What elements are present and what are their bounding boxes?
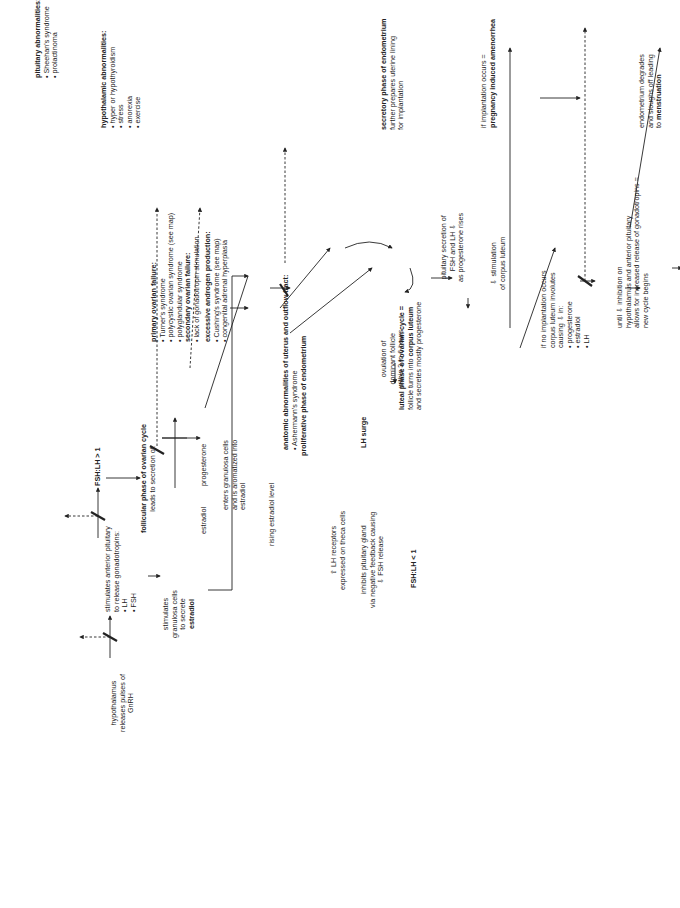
lh-surge-node: LH surge	[360, 417, 369, 448]
text-line: and secretes mostly progesterone	[415, 302, 424, 410]
text-line: estradiol	[239, 440, 248, 510]
pituitary-secretion-node: pituitary secretion of FSH and LH ⇩ as p…	[440, 213, 466, 282]
arc-inhibits-to-surge	[405, 268, 413, 292]
menstruation-node: endometrium degrades and sloughs off lea…	[638, 54, 664, 128]
list-item: • prolactinoma	[51, 0, 60, 78]
branch-progesterone	[162, 438, 175, 488]
text-line: new cycle begins	[642, 177, 651, 328]
fsh-lh-greater-than-one: FSH:LH > 1	[94, 447, 103, 486]
text-line: expressed on theca cells	[339, 511, 348, 590]
luteal-phase-node: luteal phase of ovarian cycle = follicle…	[398, 302, 424, 410]
inhibits-pituitary-node: inhibits pituitary gland via negative fe…	[360, 512, 386, 608]
hypothalamus-node: hypothalamus releases pulses of GnRH	[110, 674, 136, 732]
list-item: • Ashermann's syndrome	[291, 275, 300, 450]
arc-receptors-to-surge	[345, 242, 392, 248]
rising-estradiol-node: rising estradiol level	[268, 483, 277, 546]
pituitary-abnormalities: pituitary abnormalities: • Sheehan's syn…	[34, 0, 60, 78]
list-item: • LH	[583, 270, 592, 348]
no-implantation-node: if no implantation occurs corpus luteum …	[540, 270, 592, 348]
text-line: as progesterone rises	[457, 213, 466, 282]
concept-map: hypothalamic abnormalities: • hyper or h…	[0, 0, 680, 908]
until-inhibition-node: until ⇩ inhibition on hypothalamus and a…	[616, 177, 650, 328]
arrow-to-inhibits	[290, 268, 372, 333]
stimulates-pituitary-node: stimulates anterior pituitary to release…	[104, 526, 138, 612]
implantation-node: if implantation occurs = pregnancy induc…	[480, 19, 497, 128]
text-line: to	[654, 120, 663, 128]
granulosa-node: stimulates granulosa cells to secrete es…	[162, 590, 196, 638]
anatomic-abnormalities-node: anatomic abnormalities of uterus and out…	[282, 275, 299, 450]
text-line: ⇩ FSH release	[377, 512, 386, 608]
proliferative-phase-node: proliferative phase of endometrium	[300, 336, 309, 456]
branch-estradiol	[162, 418, 175, 438]
text-line: for implantation	[397, 19, 406, 130]
list-item: • lack of gonadotropin stimulation	[193, 213, 202, 342]
text-line: • FSH	[130, 526, 139, 612]
lh-receptors-node: ⇧ LH receptors expressed on theca cells	[330, 511, 347, 590]
excessive-androgen-node: excessive androgen production: • Cushing…	[204, 231, 230, 342]
stimulation-corpus-luteum-node: ⇩ stimulation of corpus luteum	[490, 237, 507, 290]
text-line: of corpus luteum	[499, 237, 508, 290]
list-item: • exercise	[134, 31, 143, 128]
text-line: leads to secretion of:	[149, 424, 158, 533]
fsh-lh-less-than-one: FSH:LH < 1	[410, 549, 419, 588]
ovarian-failure-node: primary ovarian failure: • Turner's synd…	[150, 213, 202, 342]
text-line: estradiol	[188, 590, 197, 638]
aromatized-node: enters granulosa cells and is aromatized…	[222, 440, 248, 510]
follicular-phase-node: follicular phase of ovarian cycle leads …	[140, 424, 157, 533]
hypothalamic-abnormalities: hypothalamic abnormalities: • hyper or h…	[100, 31, 143, 128]
menstruation-text: menstruation	[654, 74, 663, 120]
text-line: GnRH	[127, 674, 136, 732]
secretory-phase-node: secretory phase of endometrium further p…	[380, 19, 406, 130]
list-item: • congenital adrenal hyperplasia	[221, 231, 230, 342]
progesterone-label: progesterone	[200, 444, 209, 486]
estradiol-label: estradiol	[200, 507, 209, 534]
pregnancy-amenorrhea-text: pregnancy induced amenorrhea	[489, 19, 498, 128]
